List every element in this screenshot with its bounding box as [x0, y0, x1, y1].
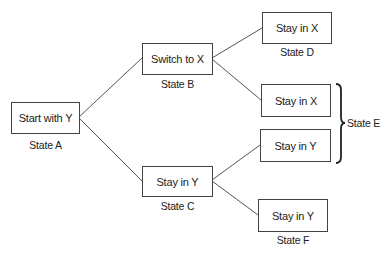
node-stay-in-y-c: Stay in Y — [142, 166, 213, 197]
label-state-e: State E — [347, 117, 380, 129]
node-start-with-y: Start with Y — [11, 102, 80, 134]
node-stay-in-y-f: Stay in Y — [258, 199, 328, 232]
label-state-c: State C — [142, 200, 213, 212]
node-stay-in-y-e: Stay in Y — [260, 129, 331, 162]
label-state-b: State B — [142, 78, 213, 90]
brace-icon — [336, 84, 345, 163]
node-stay-in-x-e: Stay in X — [261, 84, 331, 117]
label-state-d: State D — [262, 46, 332, 58]
label-state-f: State F — [258, 234, 328, 246]
node-stay-in-x-d: Stay in X — [262, 12, 332, 44]
label-state-a: State A — [11, 139, 80, 151]
node-switch-to-x: Switch to X — [142, 43, 213, 75]
